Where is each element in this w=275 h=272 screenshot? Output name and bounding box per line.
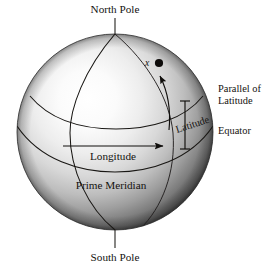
figure-container: x North Pole South Pole Parallel of Lati…	[0, 0, 275, 272]
equator-label: Equator	[218, 125, 251, 136]
point-x-dot	[155, 59, 163, 67]
sphere-diagram: x North Pole South Pole Parallel of Lati…	[0, 0, 275, 272]
longitude-label: Longitude	[90, 150, 136, 162]
parallel-of-latitude-label-line1: Parallel of	[218, 83, 262, 94]
south-pole-label: South Pole	[91, 251, 140, 263]
prime-meridian-label: Prime Meridian	[76, 179, 147, 191]
point-x-label: x	[144, 58, 150, 68]
parallel-of-latitude-label-line2: Latitude	[218, 95, 253, 106]
north-pole-label: North Pole	[91, 3, 140, 15]
